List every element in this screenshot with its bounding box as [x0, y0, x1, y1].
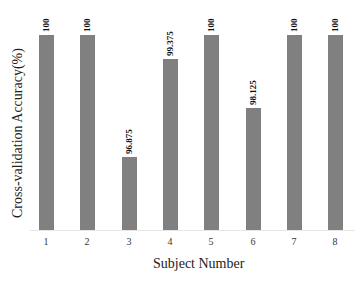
bar-subject-1: [39, 35, 54, 230]
bar-subject-8: [328, 35, 343, 230]
x-tick-label: 6: [243, 236, 263, 247]
bar-chart: 1001100296.875399.3754100598.12561007100…: [0, 0, 357, 283]
bar-subject-6: [246, 108, 261, 230]
bar-subject-2: [80, 35, 95, 230]
x-tick-label: 1: [36, 236, 56, 247]
bar-value-label: 99.375: [165, 31, 175, 56]
bar-value-label: 100: [289, 19, 299, 33]
x-axis-label: Subject Number: [153, 256, 244, 272]
bar-value-label: 100: [41, 19, 51, 33]
bar-value-label: 100: [82, 19, 92, 33]
bar-value-label: 100: [206, 19, 216, 33]
bar-value-label: 100: [330, 19, 340, 33]
y-axis-label: Cross-validation Accuracy(%): [10, 48, 26, 218]
x-tick-label: 4: [160, 236, 180, 247]
x-tick-label: 7: [284, 236, 304, 247]
bar-subject-4: [163, 59, 178, 230]
bar-subject-5: [204, 35, 219, 230]
x-tick-label: 2: [77, 236, 97, 247]
x-axis-line: [30, 230, 355, 231]
x-tick-label: 3: [119, 236, 139, 247]
bar-value-label: 96.875: [124, 129, 134, 154]
x-tick-label: 5: [201, 236, 221, 247]
bar-value-label: 98.125: [248, 80, 258, 105]
bar-subject-3: [122, 157, 137, 230]
x-tick-label: 8: [325, 236, 345, 247]
bar-subject-7: [287, 35, 302, 230]
